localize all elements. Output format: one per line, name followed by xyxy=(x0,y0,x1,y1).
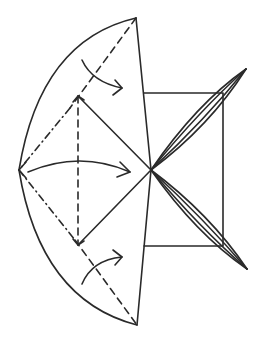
origami-diagram xyxy=(0,0,259,360)
valley-fold-lower xyxy=(75,240,137,325)
middle-fold-arrow xyxy=(28,161,130,177)
mountain-fold-lower xyxy=(19,170,75,240)
lower-fold-arrow xyxy=(82,250,122,284)
mountain-fold-upper xyxy=(19,108,70,170)
valley-fold-upper xyxy=(70,18,136,108)
inner-fold-lines xyxy=(73,96,151,245)
lower-blade xyxy=(151,170,247,269)
upper-fold-arrow xyxy=(82,60,122,95)
upper-blade xyxy=(151,69,246,170)
